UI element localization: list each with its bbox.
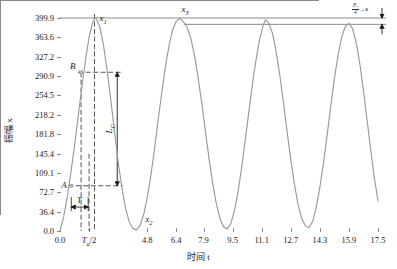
fraction-denominator: 4 (352, 10, 359, 16)
chart-canvas (0, 0, 397, 269)
trough-label-x2: x2 (145, 215, 152, 226)
x-axis-title: 时间 t (0, 250, 397, 263)
y-axis-title: 振幅 x (2, 118, 15, 143)
point-b-marker (80, 71, 83, 74)
peak-label-x3: x3 (182, 5, 189, 16)
decay-fraction-annotation: Fₐ 4 →κ (352, 3, 368, 16)
point-a-label: A (61, 181, 67, 190)
period-label: T (77, 196, 82, 205)
chart-figure: 0.036.472.7109.1145.4181.8218.2254.5290.… (0, 0, 397, 269)
point-a-marker (70, 184, 73, 187)
peak-label-x1: x1 (100, 14, 107, 25)
point-b-label: B (70, 62, 76, 71)
fraction-tail: →κ (360, 6, 368, 12)
lc-label: LC (104, 124, 116, 133)
